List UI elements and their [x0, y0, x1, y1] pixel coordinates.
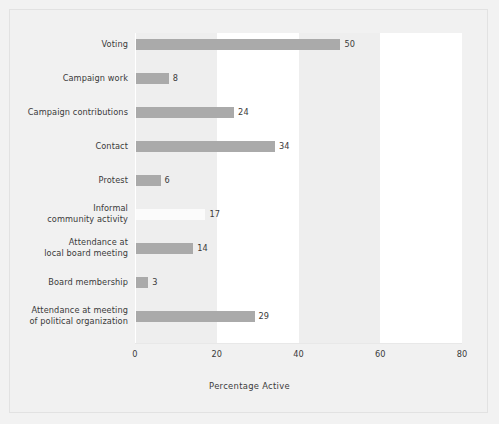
- bar-row: Attendance at meeting of political organ…: [0, 311, 499, 345]
- category-label: Protest: [0, 175, 128, 186]
- chart-figure: Voting50Campaign work8Campaign contribut…: [0, 0, 499, 424]
- bar-value-label: 29: [259, 311, 270, 322]
- bar-row: Contact34: [0, 141, 499, 175]
- bar-row: Voting50: [0, 39, 499, 73]
- category-label: Contact: [0, 141, 128, 152]
- x-axis-title: Percentage Active: [0, 381, 499, 391]
- bar-row: Attendance at local board meeting14: [0, 243, 499, 277]
- bar: [136, 311, 255, 322]
- bar-value-label: 14: [197, 243, 208, 254]
- category-label: Campaign contributions: [0, 107, 128, 118]
- category-label: Campaign work: [0, 73, 128, 84]
- bar-value-label: 24: [238, 107, 249, 118]
- x-tick-label: 20: [211, 349, 222, 359]
- x-tick-label: 60: [375, 349, 386, 359]
- bar-value-label: 17: [209, 209, 220, 220]
- bar-row: Campaign work8: [0, 73, 499, 107]
- bar-value-label: 50: [344, 39, 355, 50]
- bar: [136, 141, 275, 152]
- bar: [136, 209, 205, 220]
- category-label: Informal community activity: [0, 203, 128, 224]
- bar: [136, 73, 169, 84]
- bar: [136, 243, 193, 254]
- bar: [136, 107, 234, 118]
- x-tick-label: 0: [132, 349, 137, 359]
- category-label: Attendance at meeting of political organ…: [0, 305, 128, 326]
- bar: [136, 39, 340, 50]
- bar: [136, 277, 148, 288]
- category-label: Attendance at local board meeting: [0, 237, 128, 258]
- x-tick-label: 80: [457, 349, 468, 359]
- bar-value-label: 34: [279, 141, 290, 152]
- bar-value-label: 6: [165, 175, 170, 186]
- bar-value-label: 3: [152, 277, 157, 288]
- bar-row: Campaign contributions24: [0, 107, 499, 141]
- bar-value-label: 8: [173, 73, 178, 84]
- category-label: Voting: [0, 39, 128, 50]
- x-tick-label: 40: [293, 349, 304, 359]
- bar: [136, 175, 161, 186]
- category-label: Board membership: [0, 277, 128, 288]
